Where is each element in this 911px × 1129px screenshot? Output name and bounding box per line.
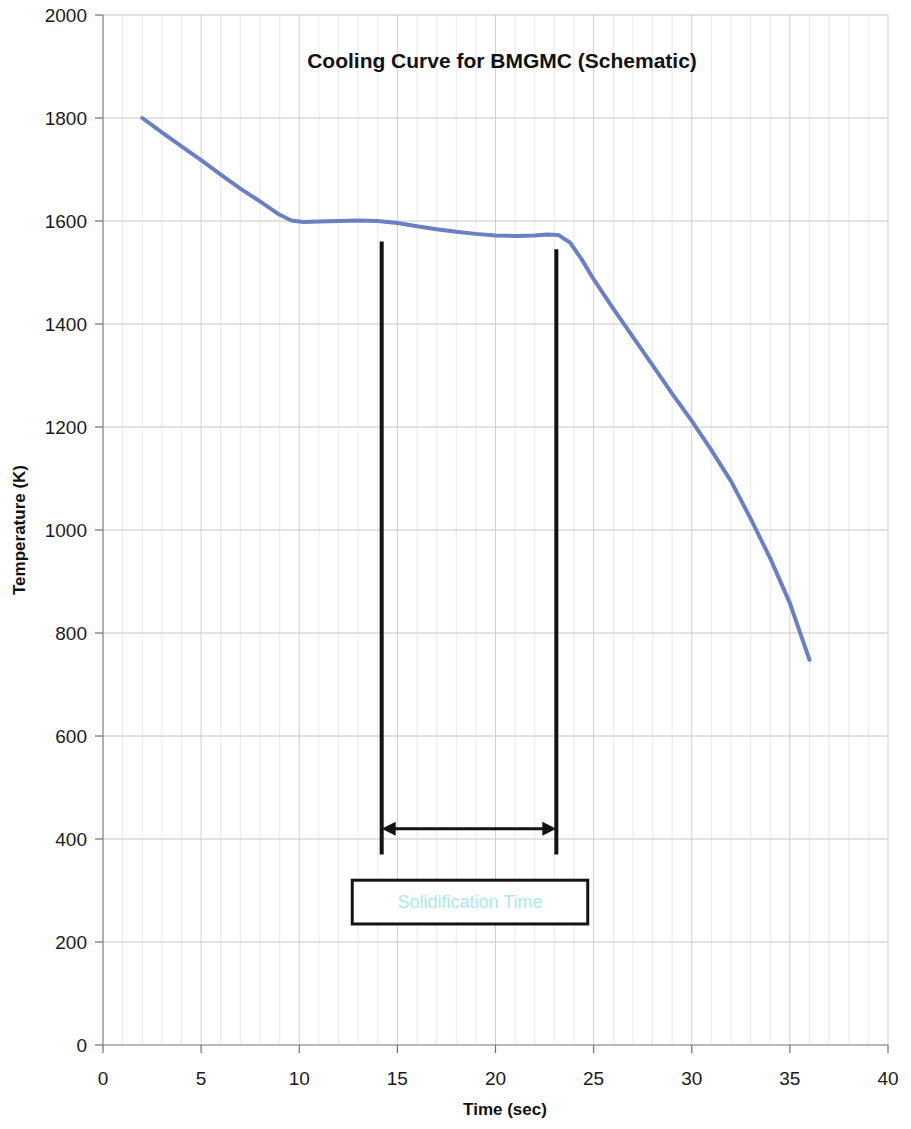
y-axis-title: Temperature (K) [10,465,29,595]
x-tick-label: 10 [289,1068,310,1089]
y-tick-label: 1400 [45,314,87,335]
y-tick-label: 800 [55,623,87,644]
y-tick-label: 600 [55,726,87,747]
y-tick-label: 1000 [45,520,87,541]
x-tick-label: 40 [877,1068,898,1089]
x-tick-label: 5 [196,1068,207,1089]
y-tick-label: 2000 [45,5,87,26]
x-tick-label: 30 [681,1068,702,1089]
y-tick-label: 1200 [45,417,87,438]
x-tick-label: 20 [485,1068,506,1089]
solidification-time-label: Solidification Time [397,892,542,912]
cooling-curve-chart: 0200400600800100012001400160018002000 05… [0,0,911,1129]
chart-container: 0200400600800100012001400160018002000 05… [0,0,911,1129]
chart-title: Cooling Curve for BMGMC (Schematic) [307,49,697,72]
x-tick-label: 25 [583,1068,604,1089]
x-tick-label: 35 [779,1068,800,1089]
x-axis-title: Time (sec) [463,1100,547,1119]
x-tick-label: 15 [387,1068,408,1089]
x-tick-label: 0 [98,1068,109,1089]
y-tick-label: 0 [76,1035,87,1056]
y-tick-label: 400 [55,829,87,850]
y-tick-label: 1600 [45,211,87,232]
y-tick-label: 1800 [45,108,87,129]
y-tick-label: 200 [55,932,87,953]
